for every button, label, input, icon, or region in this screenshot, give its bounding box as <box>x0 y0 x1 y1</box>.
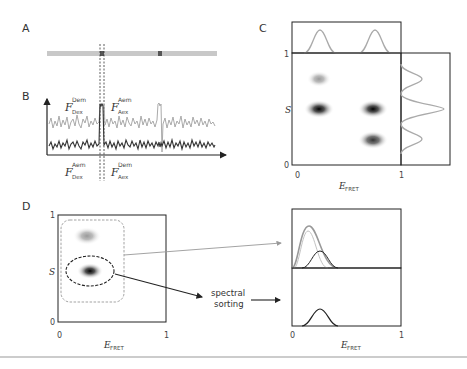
arrow-dark-to-sorting <box>115 274 202 297</box>
d-blob-upper <box>73 227 101 245</box>
d-x-tick-0: 0 <box>57 331 62 340</box>
panel-label-c: C <box>259 22 267 35</box>
c-x-tick-1: 1 <box>399 171 404 180</box>
figure-canvas: A B F Dem Dex F Aem Aex F Aem Dex F Dem … <box>0 0 467 369</box>
spectral-sorting-line1: spectral <box>211 288 245 298</box>
label-f-dex-aem: F Aem Dex <box>64 161 86 180</box>
svg-text:Dex: Dex <box>72 174 84 180</box>
d-bottom-hist-sorted <box>302 309 338 326</box>
burst-marker-1 <box>100 51 104 56</box>
c-top-tick-1: 1 <box>284 50 289 59</box>
c-blob-high-fret <box>358 100 388 118</box>
c-blob-acceptor <box>358 131 388 149</box>
spectral-sorting-line2: sorting <box>214 299 244 309</box>
svg-text:Dem: Dem <box>72 96 86 103</box>
c-blob-low-fret <box>304 100 334 118</box>
c-top-marginal-curve <box>304 30 401 53</box>
d-blob-lower <box>77 263 103 279</box>
svg-text:Aem: Aem <box>118 96 132 103</box>
c-y-axis-label: S <box>285 105 291 115</box>
svg-text:FRET: FRET <box>110 345 124 351</box>
svg-text:FRET: FRET <box>345 186 359 192</box>
d-bottom-histogram-box <box>292 268 401 326</box>
c-blob-donor-only <box>307 71 331 87</box>
svg-text:Aem: Aem <box>72 161 86 168</box>
panel-label-d: D <box>22 200 30 213</box>
label-f-aex-aem: F Aem Aex <box>110 96 132 115</box>
d-x-tick-1: 1 <box>164 331 169 340</box>
svg-text:FRET: FRET <box>347 345 361 351</box>
d-y-axis-label: S <box>49 267 55 277</box>
label-f-dex-dem: F Dem Dex <box>64 96 86 115</box>
d-top-hist-total <box>292 226 338 268</box>
c-y-tick-0: 0 <box>284 161 289 170</box>
d-right-x-tick-1: 1 <box>399 331 404 340</box>
molecule-track-bar <box>47 51 217 56</box>
svg-text:Aex: Aex <box>118 174 129 180</box>
d-right-x-axis-label: E FRET <box>340 340 361 351</box>
d-y-tick-1: 1 <box>50 211 55 220</box>
d-x-axis-label: E FRET <box>103 340 124 351</box>
panel-label-b: B <box>22 90 30 103</box>
d-y-tick-0: 0 <box>50 318 55 327</box>
c-right-marginal-curve <box>401 64 444 154</box>
c-x-axis-label: E FRET <box>338 181 359 192</box>
svg-text:Dex: Dex <box>72 109 84 115</box>
d-right-x-tick-0: 0 <box>290 331 295 340</box>
label-f-aex-dem: F Dem Aex <box>110 161 132 180</box>
panel-label-a: A <box>22 22 30 35</box>
c-x-tick-0: 0 <box>295 171 300 180</box>
burst-marker-2 <box>158 51 162 56</box>
svg-text:Aex: Aex <box>118 109 129 115</box>
d-top-histogram-box <box>292 209 401 268</box>
arrow-gray-to-top-hist <box>124 243 281 255</box>
c-right-marginal-box <box>401 53 450 165</box>
d-main-plot-box <box>58 215 166 322</box>
svg-text:Dem: Dem <box>118 161 132 168</box>
